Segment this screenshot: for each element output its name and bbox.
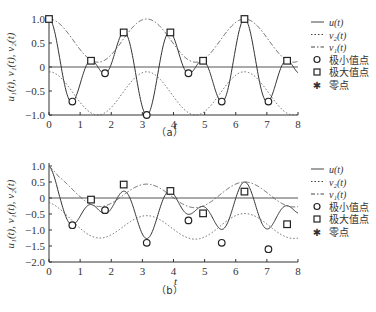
series-v1-line xyxy=(49,166,298,208)
legend-label: 极小值点 xyxy=(329,54,369,66)
minimum-point-marker xyxy=(265,246,272,253)
series-u-line xyxy=(49,166,298,239)
maximum-point-marker xyxy=(120,181,127,188)
legend-label: 零点 xyxy=(329,227,349,238)
maximum-point-marker xyxy=(241,16,248,23)
legend-square-icon xyxy=(314,216,320,222)
legend-label: 零点 xyxy=(329,80,349,91)
y-tick-label: −0.5 xyxy=(25,85,45,97)
minimum-point-marker xyxy=(102,207,109,214)
maximum-point-marker xyxy=(120,29,127,36)
legend-label: 极大值点 xyxy=(329,213,369,225)
x-tick-label: 3 xyxy=(140,118,146,130)
legend-label: v₁(t) xyxy=(329,42,347,54)
x-tick-label: 0 xyxy=(46,265,52,277)
series-v1-line xyxy=(49,19,298,62)
maximum-point-marker xyxy=(200,57,207,64)
x-tick-label: 8 xyxy=(295,118,301,130)
x-tick-label: 1 xyxy=(77,265,83,277)
minimum-point-marker xyxy=(218,240,225,247)
legend-label: 极小值点 xyxy=(329,201,369,213)
y-axis-label: u₁(t), v₁(t), v₂(t) xyxy=(4,179,17,248)
minimum-point-marker xyxy=(265,98,272,105)
maximum-point-marker xyxy=(88,196,95,203)
x-tick-label: 5 xyxy=(202,118,208,130)
minimum-point-marker xyxy=(143,112,150,119)
maximum-point-marker xyxy=(284,221,291,228)
panel-caption: （b） xyxy=(156,285,182,296)
maximum-point-marker xyxy=(167,29,174,36)
x-tick-label: 2 xyxy=(109,265,115,277)
x-tick-label: 0 xyxy=(46,118,52,130)
minimum-point-marker xyxy=(143,240,150,247)
y-tick-label: −1.0 xyxy=(25,109,45,121)
y-tick-label: 0.5 xyxy=(31,37,45,49)
y-tick-label: 0 xyxy=(40,192,46,204)
maximum-point-marker xyxy=(88,57,95,64)
legend-label: v₁(t) xyxy=(329,189,347,201)
maximum-point-marker xyxy=(200,210,207,217)
maximum-point-marker xyxy=(167,188,174,195)
maximum-point-marker xyxy=(284,57,291,64)
legend-circle-icon xyxy=(314,204,320,210)
minimum-point-marker xyxy=(185,70,192,77)
maximum-point-marker xyxy=(46,16,53,23)
x-tick-label: 5 xyxy=(202,265,208,277)
x-tick-label: 6 xyxy=(233,265,239,277)
figure: 0123456781.00.50−0.5−1.0tu₁(t), v₁(t), v… xyxy=(0,0,376,312)
y-tick-label: −0.5 xyxy=(25,208,45,220)
maximum-point-marker xyxy=(241,188,248,195)
legend-star-icon: ✱ xyxy=(313,227,321,238)
legend-label: v₂(t) xyxy=(329,30,347,42)
x-tick-label: 1 xyxy=(77,118,83,130)
y-tick-label: 0 xyxy=(40,61,46,73)
y-tick-label: 1.0 xyxy=(31,13,45,25)
y-tick-label: −2.0 xyxy=(25,256,45,268)
y-tick-label: −1.0 xyxy=(25,224,45,236)
minimum-point-marker xyxy=(218,98,225,105)
x-tick-label: 8 xyxy=(295,265,301,277)
x-tick-label: 3 xyxy=(140,265,146,277)
legend-label: u(t) xyxy=(329,17,344,29)
legend-label: u(t) xyxy=(329,164,344,176)
minimum-point-marker xyxy=(185,217,192,224)
x-tick-label: 6 xyxy=(233,118,239,130)
y-axis-label: u₁(t), v₁(t), v₂(t) xyxy=(4,32,17,101)
panel-caption: （a） xyxy=(156,127,182,138)
series-v2-line xyxy=(49,72,298,115)
y-tick-label: −1.5 xyxy=(25,240,45,252)
legend-square-icon xyxy=(314,69,320,75)
y-tick-label: 0.5 xyxy=(31,176,45,188)
x-tick-label: 2 xyxy=(109,118,115,130)
legend-label: 极大值点 xyxy=(329,66,369,78)
minimum-point-marker xyxy=(69,98,76,105)
legend-label: v₂(t) xyxy=(329,177,347,189)
minimum-point-marker xyxy=(102,70,109,77)
minimum-point-marker xyxy=(69,222,76,229)
legend-star-icon: ✱ xyxy=(313,80,321,91)
x-tick-label: 7 xyxy=(264,265,270,277)
x-tick-label: 7 xyxy=(264,118,270,130)
y-tick-label: 1.0 xyxy=(31,160,45,172)
legend-circle-icon xyxy=(314,57,320,63)
